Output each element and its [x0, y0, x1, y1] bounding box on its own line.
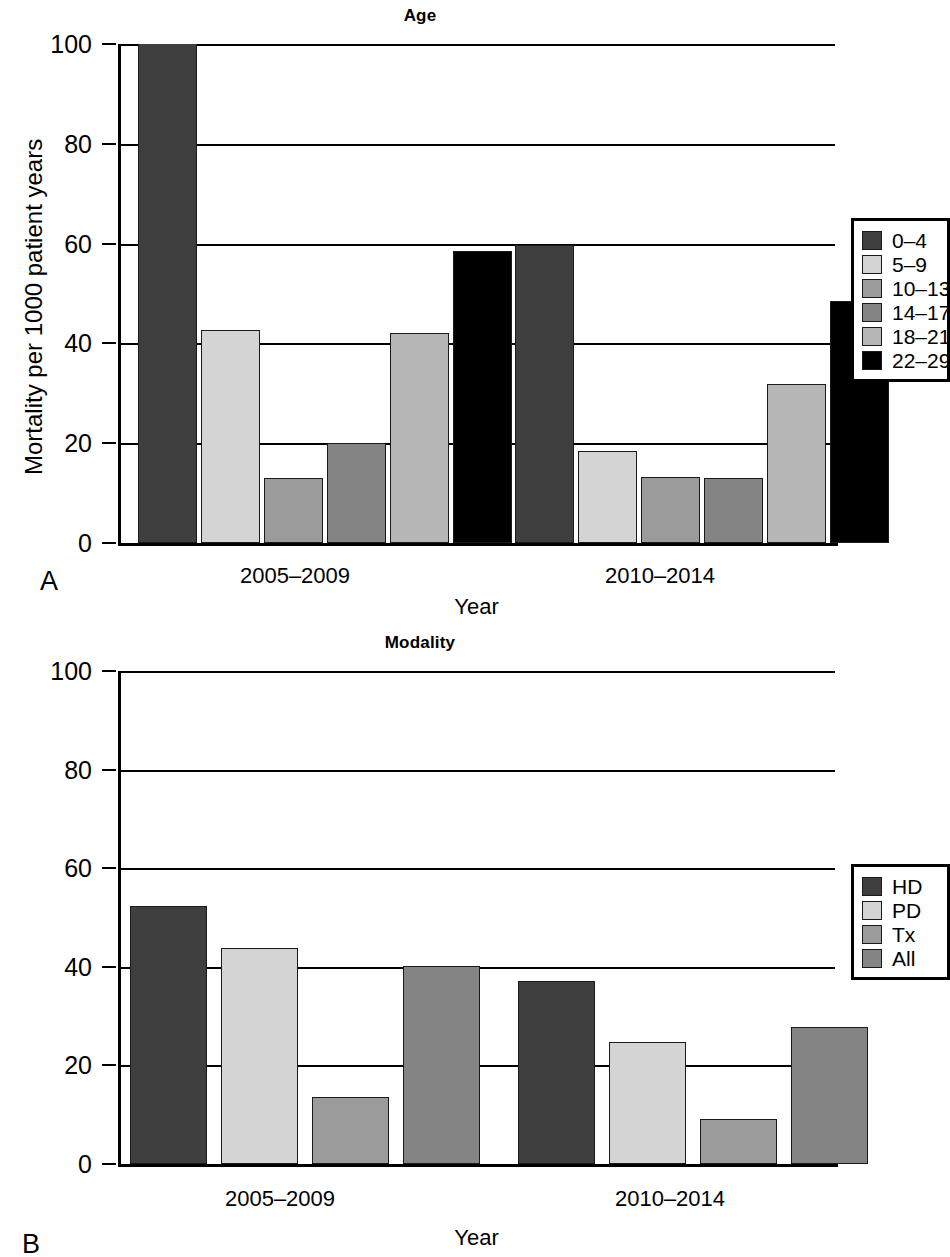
bar-age-2005–2009-14–17	[327, 443, 386, 543]
x-tick-label-2010-2014-age: 2010–2014	[535, 563, 785, 589]
bar-age-2010–2014-14–17	[704, 478, 763, 543]
x-axis-title-age: Year	[118, 594, 835, 620]
legend-item-HD: HD	[862, 874, 938, 898]
y-tick-label-40: 40	[8, 331, 92, 356]
y-tick-mark-60	[102, 243, 116, 245]
y-tick-label-100: 100	[8, 659, 92, 684]
legend-swatch-icon-HD	[862, 877, 882, 896]
legend-label-PD: PD	[892, 900, 921, 921]
gridline-60	[118, 868, 835, 870]
legend-item-All: All	[862, 946, 938, 970]
bar-modality-2010–2014-PD	[609, 1042, 686, 1164]
y-tick-mark-80	[102, 769, 116, 771]
legend-label-0–4: 0–4	[892, 230, 927, 251]
legend-label-22–29: 22–29	[892, 350, 950, 371]
y-tick-label-60: 60	[8, 231, 92, 256]
y-tick-label-20: 20	[8, 431, 92, 456]
panel-age: Age Mortality per 1000 patient years 020…	[0, 0, 950, 620]
legend-item-18–21: 18–21	[862, 324, 938, 348]
gridline-100	[118, 671, 835, 673]
legend-label-10–13: 10–13	[892, 278, 950, 299]
panel-letter-b: B	[22, 1231, 40, 1257]
y-tick-mark-0	[102, 542, 116, 544]
legend-swatch-icon-PD	[862, 901, 882, 920]
y-tick-mark-20	[102, 442, 116, 444]
y-tick-label-60: 60	[8, 856, 92, 881]
legend-swatch-icon-22–29	[862, 351, 882, 370]
y-tick-label-40: 40	[8, 954, 92, 979]
legend-item-10–13: 10–13	[862, 276, 938, 300]
legend-item-5–9: 5–9	[862, 252, 938, 276]
legend-swatch-icon-0–4	[862, 231, 882, 250]
bar-modality-2010–2014-HD	[518, 981, 595, 1164]
y-tick-mark-40	[102, 966, 116, 968]
y-tick-label-80: 80	[8, 757, 92, 782]
y-tick-label-0: 0	[8, 1152, 92, 1177]
bar-modality-2005–2009-All	[403, 966, 480, 1164]
legend-item-Tx: Tx	[862, 922, 938, 946]
legend-item-14–17: 14–17	[862, 300, 938, 324]
legend-label-All: All	[892, 948, 915, 969]
x-tick-label-2010-2014-modality: 2010–2014	[545, 1186, 795, 1212]
bar-modality-2010–2014-All	[791, 1027, 868, 1164]
x-tick-label-2005-2009-age: 2005–2009	[170, 563, 420, 589]
y-tick-mark-0	[102, 1163, 116, 1165]
legend-label-14–17: 14–17	[892, 302, 950, 323]
y-tick-mark-40	[102, 342, 116, 344]
legend-swatch-icon-18–21	[862, 327, 882, 346]
y-axis-label-age: Mortality per 1000 patient years	[20, 139, 48, 475]
chart-title-modality: Modality	[0, 633, 840, 653]
legend-item-0–4: 0–4	[862, 228, 938, 252]
y-tick-mark-100	[102, 43, 116, 45]
bar-modality-2005–2009-PD	[221, 948, 298, 1164]
legend-modality: HDPDTxAll	[851, 864, 950, 980]
bar-age-2005–2009-22–29	[453, 251, 512, 543]
legend-item-22–29: 22–29	[862, 348, 938, 372]
bar-modality-2005–2009-Tx	[312, 1097, 389, 1164]
bar-age-2010–2014-0–4	[515, 245, 574, 543]
panel-letter-a: A	[40, 568, 58, 595]
y-tick-label-20: 20	[8, 1053, 92, 1078]
bar-age-2005–2009-18–21	[390, 333, 449, 543]
legend-label-18–21: 18–21	[892, 326, 950, 347]
bar-age-2010–2014-5–9	[578, 451, 637, 543]
legend-swatch-icon-10–13	[862, 279, 882, 298]
panel-modality: Modality Mortality per 1000 patient year…	[0, 620, 950, 1257]
gridline-80	[118, 770, 835, 772]
legend-label-5–9: 5–9	[892, 254, 927, 275]
bar-age-2005–2009-5–9	[201, 330, 260, 543]
legend-swatch-icon-Tx	[862, 925, 882, 944]
legend-label-HD: HD	[892, 876, 922, 897]
gridline-60	[118, 244, 835, 246]
y-tick-label-100: 100	[8, 32, 92, 57]
y-tick-mark-100	[102, 670, 116, 672]
y-tick-label-80: 80	[8, 131, 92, 156]
bar-age-2010–2014-18–21	[767, 384, 826, 543]
bar-age-2005–2009-10–13	[264, 478, 323, 543]
bar-modality-2005–2009-HD	[130, 906, 207, 1164]
y-tick-label-0: 0	[8, 531, 92, 556]
legend-age: 0–45–910–1314–1718–2122–29	[851, 218, 950, 382]
legend-item-PD: PD	[862, 898, 938, 922]
legend-swatch-icon-14–17	[862, 303, 882, 322]
bar-age-2010–2014-10–13	[641, 477, 700, 543]
gridline-80	[118, 144, 835, 146]
x-tick-label-2005-2009-modality: 2005–2009	[155, 1186, 405, 1212]
legend-label-Tx: Tx	[892, 924, 915, 945]
bar-age-2005–2009-0–4	[138, 44, 197, 543]
legend-swatch-icon-5–9	[862, 255, 882, 274]
chart-title-age: Age	[0, 6, 840, 26]
legend-swatch-icon-All	[862, 949, 882, 968]
gridline-100	[118, 44, 835, 46]
bar-modality-2010–2014-Tx	[700, 1119, 777, 1164]
x-axis-title-modality: Year	[118, 1225, 835, 1251]
y-tick-mark-60	[102, 867, 116, 869]
y-tick-mark-20	[102, 1064, 116, 1066]
y-tick-mark-80	[102, 143, 116, 145]
